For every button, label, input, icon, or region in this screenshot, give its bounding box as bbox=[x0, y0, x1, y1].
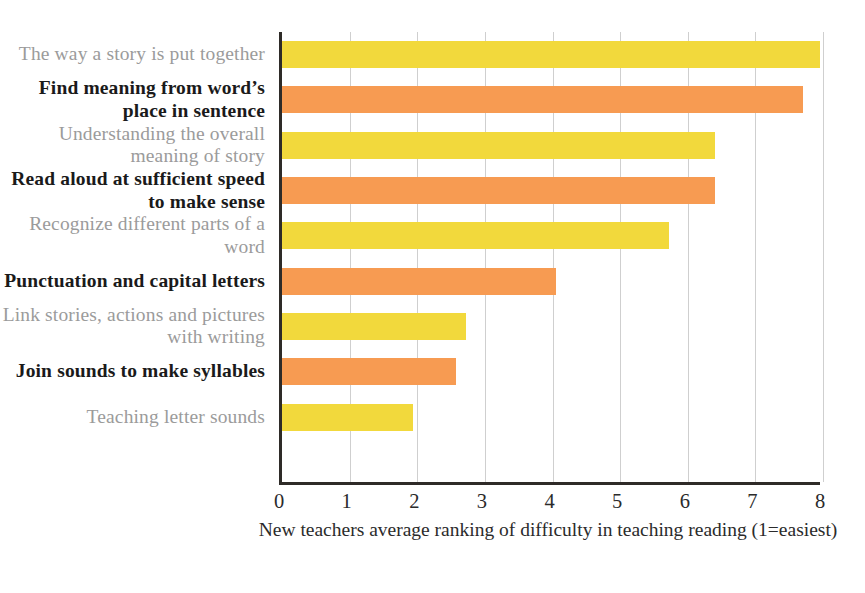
bar[interactable] bbox=[282, 222, 669, 249]
x-axis-tick-label: 8 bbox=[800, 489, 840, 513]
bar[interactable] bbox=[282, 268, 556, 295]
bar-slot bbox=[282, 349, 820, 394]
x-axis-tick-label: 0 bbox=[259, 489, 299, 513]
bar[interactable] bbox=[282, 358, 456, 385]
bar-slot bbox=[282, 304, 820, 349]
category-label: The way a story is put together bbox=[0, 43, 272, 66]
bar-series bbox=[282, 32, 820, 482]
gridline bbox=[823, 32, 824, 482]
bar-chart: The way a story is put togetherFind mean… bbox=[0, 0, 865, 593]
x-axis-tick-label: 3 bbox=[462, 489, 502, 513]
x-axis-tick-label: 4 bbox=[530, 489, 570, 513]
x-axis-tick-label: 6 bbox=[665, 489, 705, 513]
bar-slot bbox=[282, 123, 820, 168]
x-axis-tick-label: 1 bbox=[327, 489, 367, 513]
category-label: Find meaning from word’s place in senten… bbox=[0, 77, 272, 122]
category-label: Join sounds to make syllables bbox=[0, 360, 272, 383]
bar-slot bbox=[282, 394, 820, 439]
bar-slot bbox=[282, 213, 820, 258]
plot-area bbox=[279, 32, 820, 485]
x-axis-tick-label: 5 bbox=[597, 489, 637, 513]
x-axis-title: New teachers average ranking of difficul… bbox=[258, 517, 838, 543]
category-label: Punctuation and capital letters bbox=[0, 270, 272, 293]
category-label: Teaching letter sounds bbox=[0, 406, 272, 429]
bar[interactable] bbox=[282, 177, 715, 204]
bar-slot bbox=[282, 77, 820, 122]
bar[interactable] bbox=[282, 41, 820, 68]
category-label: Read aloud at sufficient speed to make s… bbox=[0, 168, 272, 213]
x-axis-tick-labels: 012345678 bbox=[279, 489, 820, 517]
bar[interactable] bbox=[282, 86, 803, 113]
bar[interactable] bbox=[282, 404, 413, 431]
x-axis-tick-label: 2 bbox=[394, 489, 434, 513]
category-label: Link stories, actions and pictures with … bbox=[0, 304, 272, 349]
category-label: Understanding the overall meaning of sto… bbox=[0, 123, 272, 168]
bar-slot bbox=[282, 168, 820, 213]
category-axis-labels: The way a story is put togetherFind mean… bbox=[0, 32, 272, 485]
bar[interactable] bbox=[282, 132, 715, 159]
x-axis-tick-label: 7 bbox=[732, 489, 772, 513]
bar-slot bbox=[282, 32, 820, 77]
category-label: Recognize different parts of a word bbox=[0, 213, 272, 258]
bar[interactable] bbox=[282, 313, 466, 340]
bar-slot bbox=[282, 259, 820, 304]
